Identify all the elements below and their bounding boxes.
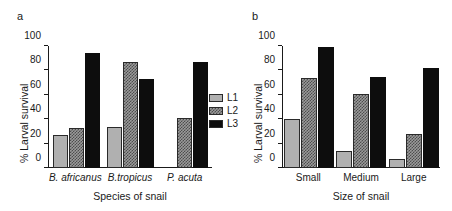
- bar-b-0-L1: [284, 119, 300, 168]
- panel-b-category-labels: Small Medium Large: [282, 172, 440, 183]
- panel-a-ytick-100: 100: [24, 31, 41, 41]
- panel-b-group-medium: [335, 46, 387, 168]
- panel-b-y-axis-title: % Larval survival: [252, 84, 264, 163]
- bar-b-2-L1: [389, 159, 405, 168]
- panel-a-bar-groups: [48, 46, 212, 168]
- panel-a-y-axis-title: % Larval survival: [18, 84, 30, 163]
- legend-swatch-l2-icon: [209, 107, 223, 115]
- legend-swatch-l1-icon: [209, 94, 223, 102]
- panel-a-ytick-40: 40: [30, 104, 41, 114]
- panel-b-letter: b: [252, 11, 258, 22]
- panel-b-plot-area: 0 20 40 60 80 100: [282, 46, 440, 168]
- panel-a-x-axis-title: Species of snail: [48, 190, 212, 202]
- panel-a-group-b-tropicus: [103, 46, 157, 168]
- bar-a-1-L3: [139, 79, 154, 168]
- panel-b-group-large: [388, 46, 440, 168]
- bar-a-0-L1: [53, 135, 68, 168]
- panel-b-ytick-40: 40: [264, 104, 275, 114]
- panel-b-category-2: Large: [387, 172, 440, 183]
- bar-a-0-L2: [69, 128, 84, 168]
- panel-b: b % Larval survival 0 20 40 60 80 100: [226, 0, 452, 211]
- bar-b-2-L3: [423, 68, 439, 168]
- panel-a-group-b-africanus: [49, 46, 103, 168]
- panel-b-group-small: [283, 46, 335, 168]
- panel-a-ytick-60: 60: [30, 80, 41, 90]
- panel-b-category-0: Small: [282, 172, 335, 183]
- panel-a: a % Larval survival 0 20 40 60 80 100: [0, 0, 226, 211]
- bar-b-0-L3: [318, 47, 334, 168]
- panel-a-category-2: P. acuta: [157, 172, 212, 183]
- panel-b-ytick-0: 0: [269, 153, 275, 163]
- panel-a-group-p-acuta: [158, 46, 212, 168]
- panel-b-ytick-100: 100: [258, 31, 275, 41]
- panel-b-ytick-80: 80: [264, 55, 275, 65]
- panel-b-bar-groups: [282, 46, 440, 168]
- bar-a-1-L1: [107, 127, 122, 168]
- panel-a-category-1: B.tropicus: [103, 172, 158, 183]
- bar-b-1-L3: [370, 77, 386, 169]
- legend-swatch-l3-icon: [209, 120, 223, 128]
- bar-b-2-L2: [406, 134, 422, 168]
- panel-b-ytick-20: 20: [264, 129, 275, 139]
- figure-two-panel-bar-chart: a % Larval survival 0 20 40 60 80 100: [0, 0, 452, 211]
- panel-a-plot-area: 0 20 40 60 80 100: [48, 46, 212, 168]
- panel-b-ytick-60: 60: [264, 80, 275, 90]
- panel-b-x-axis-title: Size of snail: [282, 190, 440, 202]
- bar-b-1-L2: [353, 94, 369, 168]
- panel-a-category-labels: B. africanus B.tropicus P. acuta: [48, 172, 212, 183]
- bar-b-0-L2: [301, 78, 317, 168]
- bar-b-1-L1: [336, 151, 352, 168]
- panel-a-ytick-20: 20: [30, 129, 41, 139]
- bar-a-1-L2: [123, 62, 138, 168]
- panel-a-letter: a: [17, 11, 23, 22]
- bar-a-0-L3: [85, 53, 100, 168]
- panel-a-ytick-0: 0: [35, 153, 41, 163]
- panel-b-category-1: Medium: [335, 172, 388, 183]
- panel-a-ytick-80: 80: [30, 55, 41, 65]
- bar-a-2-L2: [177, 118, 192, 168]
- bar-a-2-L3: [193, 62, 208, 168]
- panel-a-category-0: B. africanus: [48, 172, 103, 183]
